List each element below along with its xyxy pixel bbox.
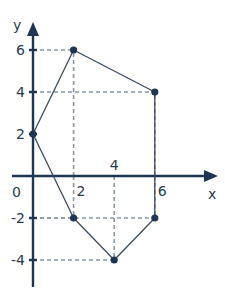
vertex-point bbox=[70, 46, 77, 53]
polygon-vertices bbox=[29, 46, 158, 263]
axis-labels: y x 0 642-2-4246 bbox=[11, 17, 216, 268]
vertex-point bbox=[111, 256, 118, 263]
coordinate-diagram: y x 0 642-2-4246 bbox=[0, 0, 225, 299]
vertex-point bbox=[151, 214, 158, 221]
y-tick-label: -2 bbox=[11, 210, 25, 226]
y-axis-arrowhead bbox=[27, 22, 39, 36]
y-tick-label: 2 bbox=[16, 126, 25, 142]
y-tick-label: 6 bbox=[16, 42, 25, 58]
vertex-point bbox=[151, 88, 158, 95]
guide-lines bbox=[33, 50, 155, 260]
vertex-point bbox=[70, 214, 77, 221]
polygon-edge bbox=[114, 218, 155, 260]
x-axis-arrowhead bbox=[204, 170, 218, 182]
polygon-edge bbox=[74, 218, 115, 260]
y-axis-label: y bbox=[13, 17, 21, 33]
y-tick-label: 4 bbox=[16, 84, 25, 100]
polygon-edge bbox=[74, 50, 155, 92]
x-axis-label: x bbox=[208, 186, 216, 202]
origin-label: 0 bbox=[12, 184, 21, 200]
vertex-point bbox=[29, 130, 36, 137]
polygon-edges bbox=[33, 50, 155, 260]
x-tick-label: 2 bbox=[77, 183, 86, 199]
x-tick-label: 4 bbox=[110, 157, 119, 173]
y-tick-label: -4 bbox=[11, 252, 25, 268]
polygon-edge bbox=[33, 50, 74, 134]
x-tick-label: 6 bbox=[158, 183, 167, 199]
